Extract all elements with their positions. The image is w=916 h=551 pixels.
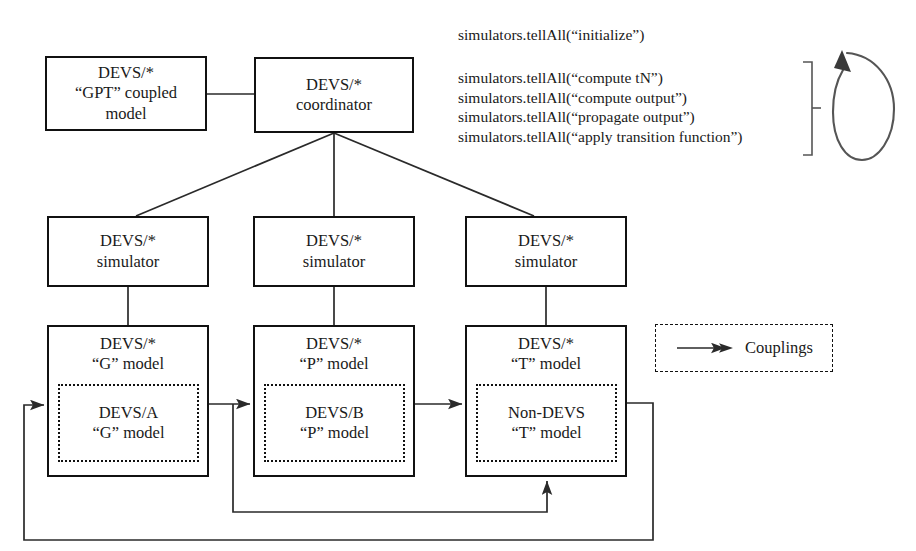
protocol-cycle-bracket [803,62,812,155]
node-model-g-inner[interactable]: DEVS/A “G” model [58,384,199,462]
simulator-g-line-2: simulator [97,252,159,272]
protocol-cycle-line-2: simulators.tellAll(“compute output”) [458,88,743,108]
model-g-inner-line-1: DEVS/A [99,403,159,423]
simulator-p-line-2: simulator [303,252,365,272]
gpt-model-line-1: DEVS/* [98,63,154,83]
protocol-initialize-line: simulators.tellAll(“initialize”) [458,25,644,45]
legend-couplings: Couplings [655,324,833,372]
protocol-cycle-block: simulators.tellAll(“compute tN”) simulat… [458,68,743,146]
simulator-t-line-1: DEVS/* [518,231,574,251]
model-g-inner-line-2: “G” model [93,423,165,443]
node-model-t-inner[interactable]: Non-DEVS “T” model [476,384,617,462]
model-p-inner-line-2: “P” model [300,423,369,443]
node-simulator-g[interactable]: DEVS/* simulator [47,216,209,287]
model-t-outer-line-2: “T” model [511,354,581,374]
coordinator-line-2: coordinator [296,95,372,115]
protocol-cycle-line-3: simulators.tellAll(“propagate output”) [458,107,743,127]
protocol-cycle-line-1: simulators.tellAll(“compute tN”) [458,68,743,88]
node-coordinator[interactable]: DEVS/* coordinator [254,57,414,133]
model-t-inner-line-2: “T” model [511,423,581,443]
link-coordinator-to-simulator-g [136,133,334,216]
coordinator-line-1: DEVS/* [306,75,362,95]
model-g-outer-line-1: DEVS/* [100,334,156,354]
model-p-outer-line-2: “P” model [299,354,368,374]
protocol-initialize-block: simulators.tellAll(“initialize”) [458,25,644,45]
node-simulator-p[interactable]: DEVS/* simulator [253,216,415,287]
devs-diagram-canvas: DEVS/* “GPT” coupled model DEVS/* coordi… [0,0,916,551]
simulator-t-line-2: simulator [515,252,577,272]
node-model-p-inner[interactable]: DEVS/B “P” model [264,384,405,462]
model-g-outer-line-2: “G” model [92,354,164,374]
simulator-p-line-1: DEVS/* [306,231,362,251]
simulator-g-line-1: DEVS/* [100,231,156,251]
model-t-outer-line-1: DEVS/* [518,334,574,354]
coupling-arrow-icon [675,341,737,355]
node-simulator-t[interactable]: DEVS/* simulator [465,216,627,287]
protocol-cycle-line-4: simulators.tellAll(“apply transition fun… [458,127,743,147]
legend-label: Couplings [745,338,813,358]
gpt-model-line-3: model [105,104,146,124]
model-p-outer-line-1: DEVS/* [306,334,362,354]
node-gpt-coupled-model[interactable]: DEVS/* “GPT” coupled model [45,56,207,131]
gpt-model-line-2: “GPT” coupled [75,83,177,103]
model-p-inner-line-1: DEVS/B [305,403,364,423]
model-t-inner-line-1: Non-DEVS [508,403,585,423]
